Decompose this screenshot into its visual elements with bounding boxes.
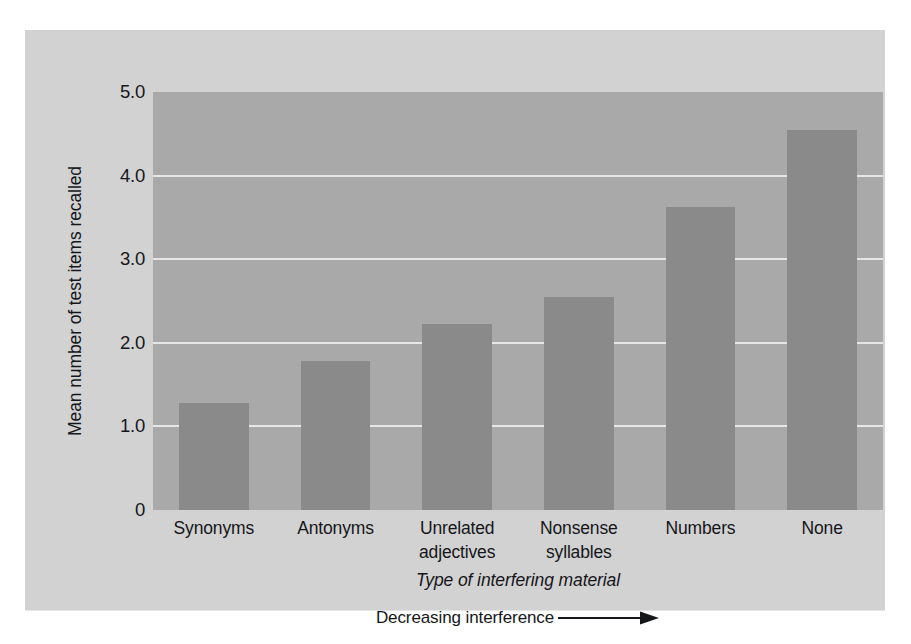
bar-synonyms (179, 403, 249, 510)
bar-none (787, 130, 857, 510)
x-tick-label-line1: Nonsense (540, 518, 618, 538)
y-tick-label: 2.0 (83, 332, 145, 354)
x-tick-label: None (761, 516, 883, 540)
x-tick-label: Numbers (640, 516, 762, 540)
bar-unrelated-adjectives (422, 324, 492, 510)
gridline (153, 342, 883, 344)
x-tick-label: Nonsensesyllables (518, 516, 640, 564)
x-tick-label-line1: Antonyms (297, 518, 374, 538)
x-axis-tick-labels: SynonymsAntonymsUnrelatedadjectivesNonse… (153, 516, 883, 572)
bar-nonsense-syllables (544, 297, 614, 510)
x-tick-label-line1: Unrelated (420, 518, 495, 538)
y-tick-label: 0 (83, 499, 145, 521)
gridline (153, 175, 883, 177)
decreasing-interference-annotation: Decreasing interference (153, 608, 883, 628)
y-tick-label: 3.0 (83, 248, 145, 270)
annotation-label: Decreasing interference (376, 608, 554, 628)
y-tick-label: 1.0 (83, 415, 145, 437)
x-tick-label: Synonyms (153, 516, 275, 540)
y-axis-tick-labels: 01.02.03.04.05.0 (83, 30, 145, 644)
figure-card: Mean number of test items recalled 01.02… (25, 30, 885, 610)
bar-numbers (666, 207, 736, 510)
x-tick-label: Unrelatedadjectives (396, 516, 518, 564)
x-tick-label-line2: adjectives (396, 540, 518, 564)
y-tick-label: 4.0 (83, 165, 145, 187)
x-tick-label-line1: Synonyms (174, 518, 255, 538)
x-tick-label-line1: None (802, 518, 843, 538)
gridline (153, 425, 883, 427)
plot-area (153, 92, 883, 510)
bar-antonyms (301, 361, 371, 510)
y-tick-label: 5.0 (83, 81, 145, 103)
gridline (153, 258, 883, 260)
x-tick-label-line1: Numbers (666, 518, 736, 538)
right-arrow-icon (556, 610, 660, 626)
x-tick-label-line2: syllables (518, 540, 640, 564)
x-axis-title: Type of interfering material (153, 570, 883, 591)
x-tick-label: Antonyms (275, 516, 397, 540)
